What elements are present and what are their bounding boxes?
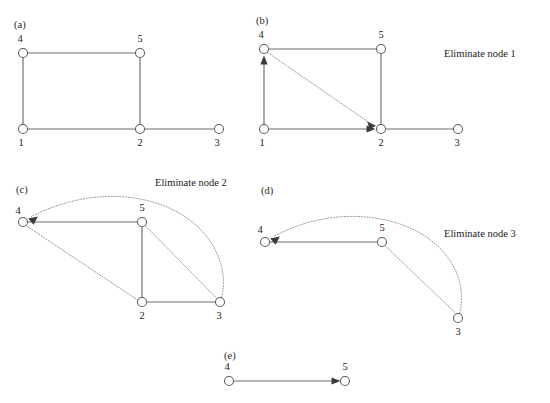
arrowhead-d-3-to-4 bbox=[270, 237, 280, 245]
node-label-b-5: 5 bbox=[378, 29, 383, 40]
node-label-a-2: 2 bbox=[137, 137, 142, 148]
caption-eliminate-node-1: Eliminate node 1 bbox=[444, 48, 516, 59]
node-label-a-5: 5 bbox=[137, 33, 142, 44]
panel-label-c: (c) bbox=[16, 184, 28, 196]
node-d-4 bbox=[261, 238, 270, 247]
node-d-5 bbox=[378, 238, 387, 247]
figure-canvas: (a) 4 5 1 2 3 (b) bbox=[0, 0, 550, 403]
node-a-4 bbox=[19, 49, 28, 58]
edge-b-4-2-fill bbox=[268, 53, 370, 123]
node-a-2 bbox=[136, 125, 145, 134]
node-label-d-5: 5 bbox=[379, 222, 384, 233]
node-label-d-3: 3 bbox=[455, 326, 460, 337]
node-b-5 bbox=[377, 45, 386, 54]
node-label-c-5: 5 bbox=[139, 202, 144, 213]
node-label-d-4: 4 bbox=[257, 224, 263, 235]
node-label-c-3: 3 bbox=[216, 310, 221, 321]
edge-c-2-4 bbox=[27, 226, 138, 300]
node-d-3 bbox=[454, 314, 463, 323]
edge-d-5-3 bbox=[385, 246, 456, 314]
node-label-c-2: 2 bbox=[139, 310, 144, 321]
panel-label-b: (b) bbox=[256, 15, 269, 27]
panel-b: (b) 4 5 1 2 3 Eliminate no bbox=[256, 15, 516, 148]
panel-e: (e) 4 5 bbox=[224, 350, 350, 386]
node-e-5 bbox=[341, 377, 350, 386]
node-c-5 bbox=[138, 218, 147, 227]
node-label-c-4: 4 bbox=[15, 205, 21, 216]
node-label-b-4: 4 bbox=[258, 29, 264, 40]
panel-label-a: (a) bbox=[14, 19, 26, 31]
node-b-3 bbox=[454, 125, 463, 134]
node-label-b-2: 2 bbox=[378, 137, 383, 148]
node-a-3 bbox=[215, 125, 224, 134]
node-label-e-4: 4 bbox=[224, 361, 230, 372]
node-label-a-3: 3 bbox=[214, 137, 219, 148]
caption-eliminate-node-3: Eliminate node 3 bbox=[444, 228, 516, 239]
node-c-3 bbox=[216, 298, 225, 307]
node-label-a-4: 4 bbox=[17, 33, 23, 44]
node-a-5 bbox=[136, 49, 145, 58]
node-c-4 bbox=[19, 218, 28, 227]
figure-svg: (a) 4 5 1 2 3 (b) bbox=[0, 0, 550, 403]
node-label-e-5: 5 bbox=[342, 361, 347, 372]
panel-label-d: (d) bbox=[261, 185, 274, 197]
node-label-b-3: 3 bbox=[454, 137, 459, 148]
arrowhead-c-3-to-4 bbox=[28, 217, 38, 225]
node-label-a-1: 1 bbox=[18, 137, 23, 148]
arrowhead-b-1-to-4 bbox=[260, 56, 267, 65]
node-c-2 bbox=[138, 298, 147, 307]
caption-eliminate-node-2: Eliminate node 2 bbox=[155, 177, 227, 188]
panel-d: (d) 4 5 3 Eliminate node 3 bbox=[257, 185, 515, 337]
edge-c-5-3 bbox=[146, 226, 217, 298]
node-label-b-1: 1 bbox=[259, 137, 264, 148]
node-b-4 bbox=[260, 45, 269, 54]
panel-c: (c) 4 5 2 3 Eliminate node 2 bbox=[15, 177, 226, 321]
arrowhead-e-4-to-5 bbox=[332, 377, 341, 384]
edge-c-3-4-arc bbox=[32, 196, 224, 297]
edge-d-3-4-arc bbox=[274, 216, 462, 313]
node-b-1 bbox=[260, 125, 269, 134]
node-e-4 bbox=[225, 377, 234, 386]
node-b-2 bbox=[377, 125, 386, 134]
node-a-1 bbox=[19, 125, 28, 134]
panel-a: (a) 4 5 1 2 3 bbox=[14, 19, 224, 148]
